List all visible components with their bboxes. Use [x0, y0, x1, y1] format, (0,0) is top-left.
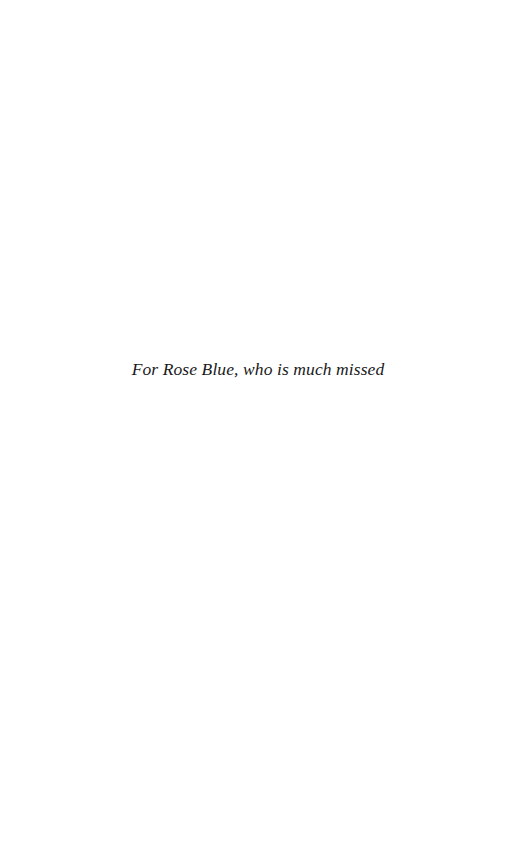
dedication-text: For Rose Blue, who is much missed — [0, 358, 516, 380]
dedication-page: For Rose Blue, who is much missed — [0, 0, 516, 861]
